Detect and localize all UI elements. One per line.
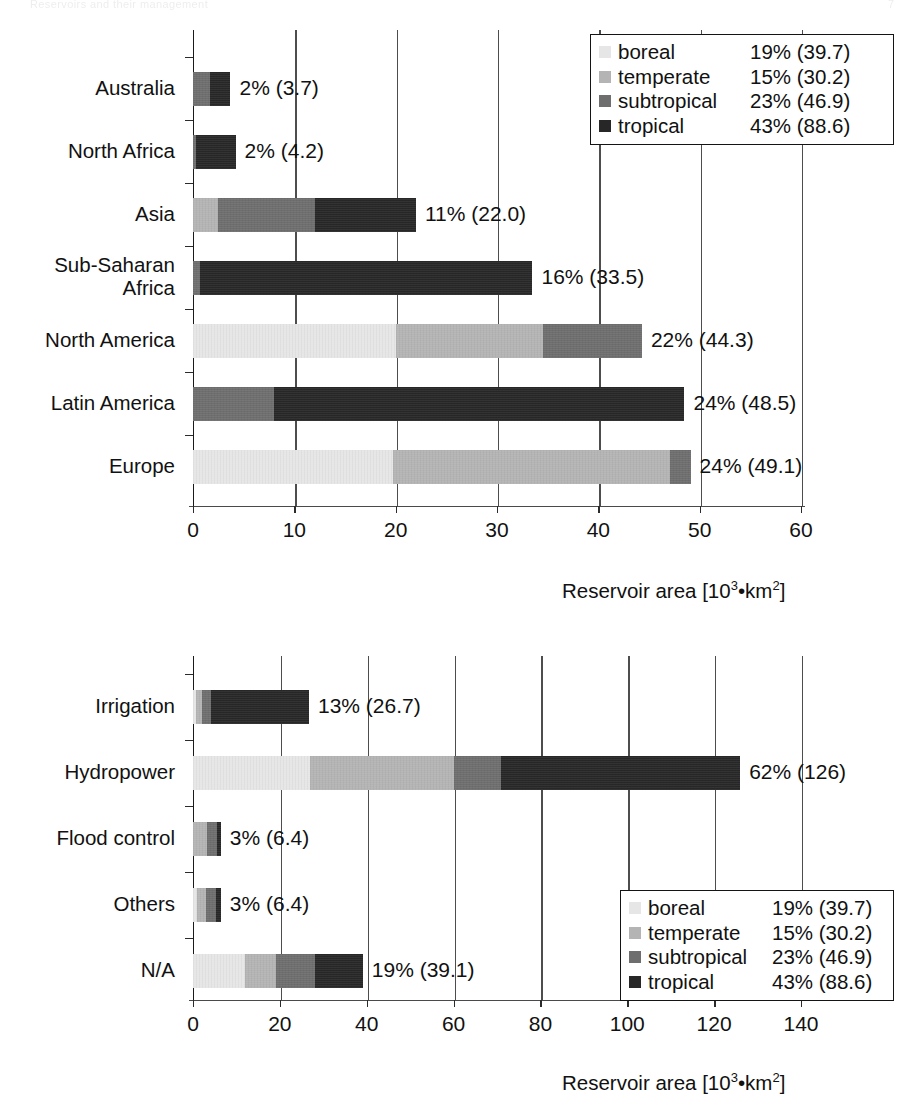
category-label-line: Others: [0, 893, 175, 916]
table-row: [193, 198, 416, 232]
bar-segment-tropical: [315, 198, 416, 232]
scan-artifact-header: Reservoirs and their management 7: [0, 0, 916, 14]
y-axis-tick: [185, 57, 193, 58]
legend-row-subtropical: subtropical23% (46.9): [599, 89, 883, 114]
legend-value-temperate: 15% (30.2): [750, 65, 850, 89]
legend-label-tropical: tropical: [618, 114, 750, 138]
boreal-swatch-icon: [599, 46, 611, 58]
x-axis-tick: [598, 506, 599, 513]
chart-reservoir-area-by-region: 0102030405060Australia2% (3.7)North Afri…: [0, 18, 916, 618]
tropical-swatch-icon: [629, 976, 641, 988]
boreal-swatch-icon: [629, 902, 641, 914]
x-axis-tick-label: 0: [187, 518, 199, 542]
x-axis-tick: [540, 1000, 541, 1007]
x-axis-tick-label: 50: [688, 518, 711, 542]
bar-value-label: 24% (49.1): [700, 454, 803, 478]
bar-segment-subtropical: [206, 888, 216, 922]
scan-header-page-number: 7: [888, 0, 894, 10]
legend-value-tropical: 43% (88.6): [750, 114, 850, 138]
legend-row-temperate: temperate15% (30.2): [599, 65, 883, 90]
category-label-line: Hydropower: [0, 761, 175, 784]
legend-label-subtropical: subtropical: [618, 89, 750, 113]
x-axis-tick-label: 10: [283, 518, 306, 542]
x-axis-tick: [801, 506, 802, 513]
x-axis-tick-label: 120: [697, 1012, 732, 1036]
x-axis-tick-label: 20: [384, 518, 407, 542]
table-row: [193, 135, 236, 169]
y-axis-tick: [185, 740, 193, 741]
bar-segment-temperate: [310, 756, 453, 790]
table-row: [193, 690, 309, 724]
bar-segment-boreal: [193, 954, 245, 988]
category-label-irrigation: Irrigation: [0, 695, 175, 718]
bar-value-label: 11% (22.0): [425, 202, 526, 226]
x-axis-tick-label: 60: [442, 1012, 465, 1036]
x-axis-tick: [396, 506, 397, 513]
category-label-asia: Asia: [0, 203, 175, 226]
bar-segment-boreal: [193, 756, 310, 790]
bar-segment-tropical: [210, 72, 230, 106]
x-axis-tick: [367, 1000, 368, 1007]
category-label-latin-america: Latin America: [0, 392, 175, 415]
bar-segment-subtropical: [276, 954, 315, 988]
x-axis-tick: [700, 506, 701, 513]
table-row: [193, 450, 691, 484]
x-axis-tick: [193, 1000, 194, 1007]
y-axis-tick: [185, 435, 193, 436]
bar-segment-boreal: [193, 324, 396, 358]
bar-segment-tropical: [274, 387, 684, 421]
table-row: [193, 756, 740, 790]
legend-row-temperate: temperate15% (30.2): [629, 921, 883, 946]
bar-segment-tropical: [501, 756, 740, 790]
bar-segment-tropical: [211, 690, 309, 724]
category-label-line: Australia: [0, 77, 175, 100]
x-axis-tick: [497, 506, 498, 513]
x-axis-title: Reservoir area [103•km2]: [562, 1070, 785, 1095]
category-label-hydropower: Hydropower: [0, 761, 175, 784]
category-label-line: Asia: [0, 203, 175, 226]
y-axis-tick: [185, 938, 193, 939]
legend-value-subtropical: 23% (46.9): [772, 945, 872, 969]
bar-segment-temperate: [193, 198, 218, 232]
bar-segment-subtropical: [193, 387, 274, 421]
y-axis-tick: [185, 674, 193, 675]
category-label-line: North America: [0, 329, 175, 352]
x-axis-tick: [280, 1000, 281, 1007]
table-row: [193, 261, 532, 295]
category-label-line: N/A: [0, 959, 175, 982]
bar-value-label: 3% (6.4): [230, 826, 309, 850]
table-row: [193, 387, 684, 421]
bar-value-label: 2% (4.2): [245, 139, 324, 163]
x-axis-tick: [801, 1000, 802, 1007]
y-axis-tick: [185, 872, 193, 873]
bar-segment-tropical: [216, 888, 221, 922]
y-axis-tick: [185, 120, 193, 121]
y-axis-tick: [185, 806, 193, 807]
table-row: [193, 888, 221, 922]
x-axis-tick-label: 40: [587, 518, 610, 542]
y-axis-tick: [185, 183, 193, 184]
bar-segment-subtropical: [543, 324, 642, 358]
bar-value-label: 22% (44.3): [651, 328, 754, 352]
bar-segment-tropical: [200, 261, 532, 295]
bar-value-label: 16% (33.5): [541, 265, 644, 289]
category-label-australia: Australia: [0, 77, 175, 100]
tropical-swatch-icon: [599, 120, 611, 132]
bar-segment-subtropical: [207, 822, 217, 856]
subtropical-swatch-icon: [629, 951, 641, 963]
x-axis-tick: [627, 1000, 628, 1007]
bar-value-label: 2% (3.7): [239, 76, 318, 100]
subtropical-swatch-icon: [599, 95, 611, 107]
bar-segment-subtropical: [670, 450, 690, 484]
legend-by-purpose: boreal19% (39.7)temperate15% (30.2)subtr…: [620, 890, 894, 1001]
legend-by-region: boreal19% (39.7)temperate15% (30.2)subtr…: [590, 34, 894, 145]
y-axis-tick: [185, 372, 193, 373]
legend-row-boreal: boreal19% (39.7): [599, 40, 883, 65]
legend-label-temperate: temperate: [648, 921, 772, 945]
temperate-swatch-icon: [599, 71, 611, 83]
legend-row-tropical: tropical43% (88.6): [629, 970, 883, 995]
category-label-europe: Europe: [0, 455, 175, 478]
bar-value-label: 62% (126): [749, 760, 846, 784]
table-row: [193, 822, 221, 856]
legend-value-subtropical: 23% (46.9): [750, 89, 850, 113]
